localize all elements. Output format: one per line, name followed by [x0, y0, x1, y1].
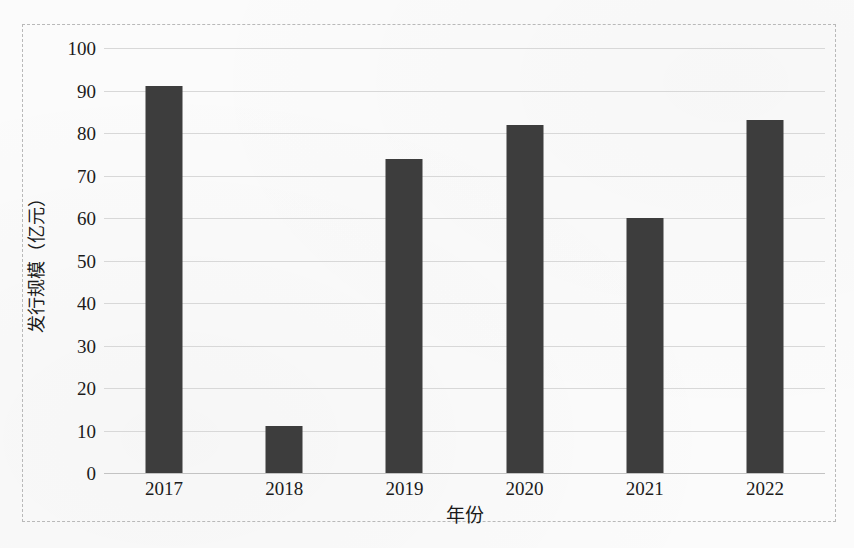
y-axis-title: 发行规模（亿元） — [22, 48, 48, 473]
x-tick-label: 2019 — [385, 478, 423, 500]
x-tick-label: 2020 — [506, 478, 544, 500]
y-tick-label: 20 — [52, 379, 96, 398]
y-axis-tick-labels: 100 90 80 70 60 50 40 30 20 10 0 — [44, 48, 96, 473]
x-tick-label: 2022 — [746, 478, 784, 500]
chart-page: 100 90 80 70 60 50 40 30 20 10 0 2 — [0, 0, 854, 548]
y-tick-label: 0 — [52, 464, 96, 483]
y-tick-label: 40 — [52, 294, 96, 313]
y-axis-title-text: 发行规模（亿元） — [22, 189, 48, 333]
y-tick-label: 60 — [52, 209, 96, 228]
x-axis-title: 年份 — [104, 500, 825, 527]
y-tick-label: 50 — [52, 251, 96, 270]
x-tick-label: 2017 — [145, 478, 183, 500]
x-axis-tick-labels: 2017 2018 2019 2020 2021 2022 — [104, 0, 825, 548]
x-tick-label: 2021 — [626, 478, 664, 500]
y-tick-label: 90 — [52, 81, 96, 100]
y-tick-label: 70 — [52, 166, 96, 185]
y-tick-label: 80 — [52, 124, 96, 143]
y-tick-label: 10 — [52, 421, 96, 440]
y-tick-label: 100 — [52, 39, 96, 58]
y-tick-label: 30 — [52, 336, 96, 355]
x-tick-label: 2018 — [265, 478, 303, 500]
